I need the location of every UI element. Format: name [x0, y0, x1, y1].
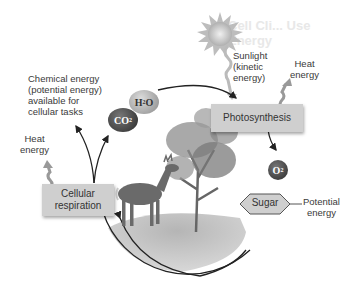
cellular-respiration-box: Cellular respiration: [42, 184, 114, 216]
o2-arrow: [268, 130, 276, 150]
cellular-respiration-label-line2: respiration: [55, 200, 102, 212]
sunlight-arrow: [225, 46, 231, 94]
chemical-energy-label: Chemical energy (potential energy) avail…: [28, 73, 102, 117]
respiration-to-chemical-energy-arrow: [76, 126, 94, 183]
co2-molecule: CO2: [108, 108, 138, 132]
photosynthesis-box: Photosynthesis: [211, 104, 303, 132]
sugar-label: Sugar: [250, 197, 280, 208]
water-molecule: H2O: [129, 90, 159, 114]
cycle-arc-top: [158, 86, 236, 99]
diagram-graphics: [0, 0, 358, 282]
sunlight-label: Sunlight (kinetic energy): [233, 50, 267, 83]
respiration-heat-label: Heat energy: [20, 133, 49, 155]
respiration-to-co2-arrow: [94, 136, 108, 183]
potential-energy-label: Potential energy: [303, 196, 340, 218]
o2-molecule: O2: [268, 160, 288, 180]
photosynthesis-heat-label: Heat energy: [290, 58, 319, 80]
cellular-respiration-label-line1: Cellular: [61, 188, 95, 200]
photosynthesis-label: Photosynthesis: [223, 112, 291, 124]
